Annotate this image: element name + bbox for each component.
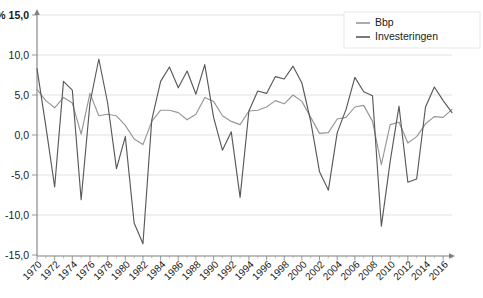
investment-gdp-line-chart: 10,05,00,0-5,0-10,0-15,0% 15,0 197019721… — [0, 0, 483, 298]
x-axis-tick-label: 1976 — [73, 258, 97, 282]
x-axis-tick-label: 2006 — [338, 258, 362, 282]
data-series — [37, 59, 452, 244]
chart-container: 10,05,00,0-5,0-10,0-15,0% 15,0 197019721… — [0, 0, 483, 298]
legend-label-bbp: Bbp — [375, 16, 394, 28]
axis-ticks — [32, 15, 452, 261]
y-axis-tick-label: -5,0 — [11, 169, 29, 181]
y-axis-labels: 10,05,00,0-5,0-10,0-15,0% 15,0 — [0, 9, 29, 261]
x-axis-tick-label: 1994 — [232, 258, 256, 282]
y-axis-tick-label: 10,0 — [9, 49, 30, 61]
x-axis-tick-label: 1978 — [91, 258, 115, 282]
x-axis-tick-label: 1998 — [268, 258, 292, 282]
x-axis-tick-label: 1992 — [215, 258, 239, 282]
legend-label-investeringen: Investeringen — [375, 30, 438, 42]
x-axis-tick-label: 2010 — [374, 258, 398, 282]
x-axis-tick-label: 1970 — [20, 258, 44, 282]
x-axis-tick-label: 1974 — [56, 258, 80, 282]
x-axis-tick-label: 2000 — [285, 258, 309, 282]
x-axis-tick-label: 1984 — [144, 258, 168, 282]
y-axis-tick-label: 5,0 — [14, 89, 29, 101]
x-axis-tick-label: 1980 — [109, 258, 133, 282]
x-axis-tick-label: 2012 — [391, 258, 415, 282]
x-axis-tick-label: 2016 — [427, 258, 451, 282]
x-axis-labels: 1970197219741976197819801982198419861988… — [20, 258, 450, 282]
series-line-investeringen — [37, 59, 452, 244]
x-axis-tick-label: 1996 — [250, 258, 274, 282]
x-axis-tick-label: 2004 — [321, 258, 345, 282]
y-axis-unit-label: % 15,0 — [0, 9, 29, 21]
x-axis-tick-label: 1990 — [197, 258, 221, 282]
x-axis-tick-label: 1982 — [126, 258, 150, 282]
y-axis-tick-label: -10,0 — [5, 209, 29, 221]
x-axis-tick-label: 1988 — [179, 258, 203, 282]
x-axis-tick-label: 2008 — [356, 258, 380, 282]
y-axis-tick-label: 0,0 — [14, 129, 29, 141]
x-axis-tick-label: 2002 — [303, 258, 327, 282]
x-axis-tick-label: 1972 — [38, 258, 62, 282]
x-axis-tick-label: 1986 — [162, 258, 186, 282]
y-axis-tick-label: -15,0 — [5, 249, 29, 261]
x-axis-tick-label: 2014 — [409, 258, 433, 282]
chart-legend: BbpInvesteringen — [344, 12, 480, 48]
y-axis-arrow — [34, 9, 40, 15]
